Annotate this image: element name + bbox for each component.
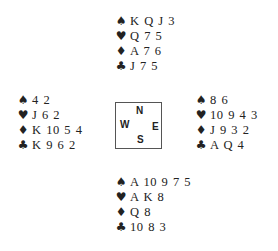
diamond-icon: ♦ (17, 123, 30, 138)
north-hand: ♠K Q J 3 ♥Q 7 5 ♦A 7 6 ♣J 7 5 (115, 14, 175, 74)
west-clubs: ♣K 9 6 2 (17, 138, 82, 153)
south-clubs: ♣10 8 3 (115, 220, 191, 235)
heart-icon: ♥ (17, 108, 30, 123)
compass-south-label: S (137, 134, 144, 145)
east-diamonds: ♦J 9 3 2 (195, 123, 258, 138)
west-diamonds: ♦K 10 5 4 (17, 123, 82, 138)
north-spades: ♠K Q J 3 (115, 14, 175, 29)
south-hearts: ♥A K 8 (115, 190, 191, 205)
spade-icon: ♠ (17, 93, 30, 108)
east-clubs: ♣A Q 4 (195, 138, 258, 153)
north-clubs: ♣J 7 5 (115, 59, 175, 74)
compass-north-label: N (136, 105, 143, 116)
heart-icon: ♥ (115, 190, 128, 205)
north-hearts: ♥Q 7 5 (115, 29, 175, 44)
club-icon: ♣ (115, 59, 128, 74)
south-hand: ♠A 10 9 7 5 ♥A K 8 ♦Q 8 ♣10 8 3 (115, 175, 191, 235)
west-spades: ♠4 2 (17, 93, 82, 108)
diamond-icon: ♦ (115, 205, 128, 220)
club-icon: ♣ (115, 220, 128, 235)
heart-icon: ♥ (195, 108, 208, 123)
spade-icon: ♠ (115, 175, 128, 190)
diamond-icon: ♦ (115, 44, 128, 59)
east-spades: ♠8 6 (195, 93, 258, 108)
club-icon: ♣ (17, 138, 30, 153)
compass-east-label: E (152, 121, 159, 132)
east-hearts: ♥10 9 4 3 (195, 108, 258, 123)
heart-icon: ♥ (115, 29, 128, 44)
club-icon: ♣ (195, 138, 208, 153)
diamond-icon: ♦ (195, 123, 208, 138)
compass-box: N W E S (115, 102, 162, 149)
south-spades: ♠A 10 9 7 5 (115, 175, 191, 190)
spade-icon: ♠ (115, 14, 128, 29)
compass-west-label: W (120, 119, 129, 130)
spade-icon: ♠ (195, 93, 208, 108)
south-diamonds: ♦Q 8 (115, 205, 191, 220)
north-diamonds: ♦A 7 6 (115, 44, 175, 59)
west-hearts: ♥J 6 2 (17, 108, 82, 123)
east-hand: ♠8 6 ♥10 9 4 3 ♦J 9 3 2 ♣A Q 4 (195, 93, 258, 153)
west-hand: ♠4 2 ♥J 6 2 ♦K 10 5 4 ♣K 9 6 2 (17, 93, 82, 153)
